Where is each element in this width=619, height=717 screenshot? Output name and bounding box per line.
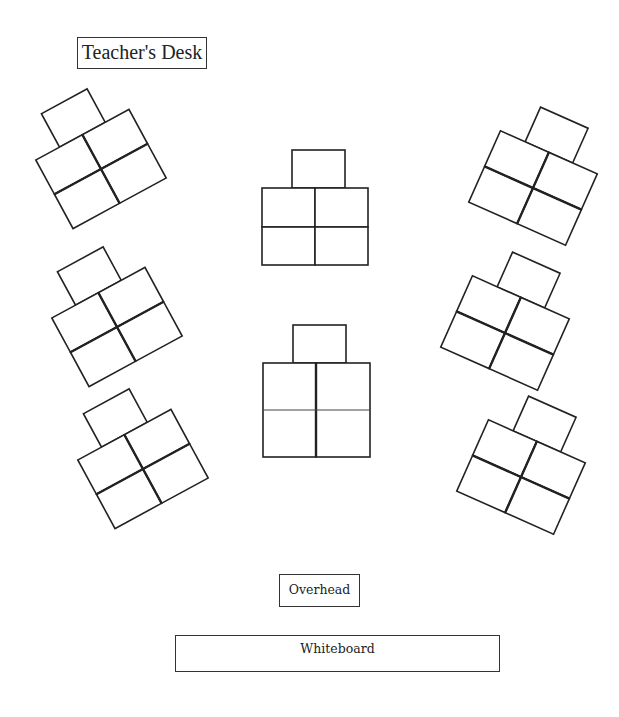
teacher-desk-label: Teacher's Desk: [77, 37, 207, 69]
desk-group-left-bottom: [60, 376, 209, 529]
classroom-floorplan: [0, 0, 619, 717]
desk-group-left-middle: [34, 234, 183, 387]
desk-group-right-middle: [441, 241, 585, 390]
overhead-projector-label: Overhead: [279, 574, 360, 607]
desk-group-center-top: [262, 150, 368, 265]
whiteboard-label: Whiteboard: [175, 635, 500, 672]
desk-group-right-top: [469, 96, 613, 245]
desk-group-right-bottom: [457, 385, 601, 534]
desk-group-left-top: [18, 76, 167, 229]
desk-group-center-bottom: [263, 325, 370, 457]
